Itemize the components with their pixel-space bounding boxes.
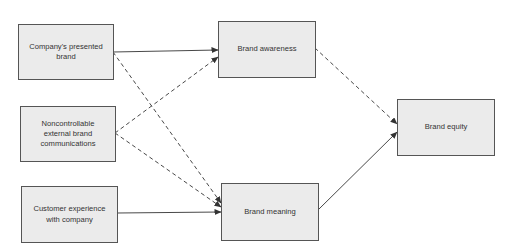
edge-meaning-to-equity: [318, 132, 397, 210]
node-label: Noncontrollable external brand communica…: [33, 119, 103, 150]
edge-company-to-awareness: [113, 50, 218, 52]
node-brand-meaning: Brand meaning: [221, 183, 319, 241]
node-label: Brand equity: [425, 122, 468, 132]
node-label: Brand awareness: [237, 44, 296, 54]
node-company-presented-brand: Company's presented brand: [18, 24, 114, 80]
node-customer-experience: Customer experience with company: [21, 186, 118, 243]
node-brand-awareness: Brand awareness: [218, 21, 316, 78]
node-label: Company's presented brand: [23, 42, 109, 63]
edge-company-to-meaning: [113, 52, 221, 203]
node-brand-equity: Brand equity: [397, 99, 495, 156]
edge-external-to-awareness: [115, 57, 218, 133]
edge-experience-to-meaning: [117, 212, 221, 213]
node-label: Customer experience with company: [26, 204, 113, 225]
node-label: Brand meaning: [244, 207, 296, 217]
node-noncontrollable-external-communications: Noncontrollable external brand communica…: [20, 106, 116, 162]
edge-awareness-to-equity: [315, 48, 397, 124]
edge-external-to-meaning: [115, 133, 221, 207]
